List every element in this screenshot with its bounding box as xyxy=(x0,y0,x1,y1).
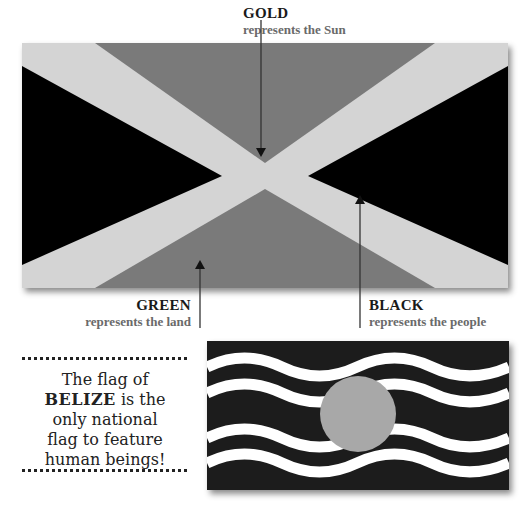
belize-flag xyxy=(207,341,509,490)
green-label-subtitle: represents the land xyxy=(85,315,191,328)
belize-fact: The flag of BELIZE is the only national … xyxy=(20,370,190,470)
fact-country: BELIZE xyxy=(44,390,115,409)
fact-line-2: BELIZE is the xyxy=(20,390,190,410)
fact-line-1: The flag of xyxy=(20,370,190,390)
black-label-title: BLACK xyxy=(369,298,486,313)
belize-flag-graphic xyxy=(207,341,509,490)
sun-circle xyxy=(320,376,396,452)
arrow-up-green-icon xyxy=(195,260,205,330)
green-label: GREEN represents the land xyxy=(85,298,191,328)
black-label: BLACK represents the people xyxy=(369,298,486,328)
fact-line-3: only national xyxy=(20,410,190,430)
fact-line-5: human beings! xyxy=(20,450,190,470)
arrow-up-black-icon xyxy=(355,195,365,330)
bottom-dotted-divider xyxy=(22,469,187,474)
top-dotted-divider xyxy=(22,357,187,362)
black-label-subtitle: represents the people xyxy=(369,315,486,328)
gold-label-title: GOLD xyxy=(243,6,346,21)
green-label-title: GREEN xyxy=(85,298,191,313)
fact-line-2-rest: is the xyxy=(116,390,166,409)
fact-line-4: flag to feature xyxy=(20,430,190,450)
arrow-down-icon xyxy=(256,20,266,160)
